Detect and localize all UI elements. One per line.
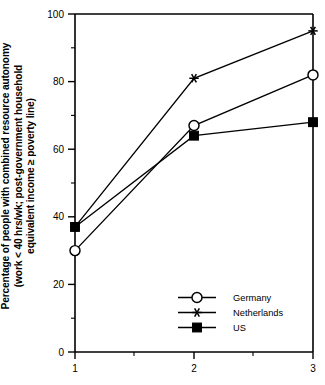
y-ticklabel-0: 0 (58, 347, 64, 358)
marker-circle-germany-x2 (189, 121, 199, 131)
y-axis-label-line-3: equivalent income ≥ poverty line) (25, 98, 38, 254)
y-axis-label-line-1: Percentage of people with combined resou… (0, 43, 13, 310)
marker-square-us-x1 (71, 223, 80, 232)
marker-circle-germany-x1 (70, 246, 80, 256)
x-axis-ticks (75, 352, 313, 359)
marker-square-us-x3 (309, 118, 318, 127)
x-ticklabel-2: 2 (191, 363, 197, 374)
legend-label-us: US (233, 323, 246, 333)
y-ticklabel-40: 40 (53, 211, 65, 222)
legend-label-netherlands: Netherlands (233, 308, 283, 318)
legend-marker-circle-germany (192, 293, 202, 303)
marker-star-netherlands-x2 (189, 74, 198, 82)
x-ticklabel-3: 3 (310, 363, 316, 374)
legend-item-us[interactable]: US (178, 323, 246, 333)
series-us (71, 118, 318, 232)
legend-item-netherlands[interactable]: Netherlands (178, 308, 283, 318)
series-germany-markers (70, 70, 318, 256)
x-ticklabel-1: 1 (72, 363, 78, 374)
y-ticklabel-100: 100 (47, 9, 64, 20)
series-germany (70, 70, 318, 256)
chart-figure: Percentage of people with combined resou… (0, 0, 325, 385)
y-axis-label: Percentage of people with combined resou… (0, 0, 46, 385)
y-ticklabel-80: 80 (53, 76, 65, 87)
legend-marker-star-netherlands (192, 308, 201, 316)
y-ticklabel-60: 60 (53, 144, 65, 155)
x-axis-ticklabels: 1 2 3 (72, 363, 316, 374)
y-axis-ticklabels: 0 20 40 60 80 100 (47, 9, 64, 358)
legend-marker-square-us (193, 323, 202, 332)
marker-square-us-x2 (190, 131, 199, 140)
plot-svg: 0 20 40 60 80 100 1 2 3 (0, 0, 325, 385)
y-axis-ticks (68, 14, 75, 352)
legend: Germany Netherlands US (178, 293, 283, 334)
series-germany-line (75, 75, 313, 251)
y-ticklabel-20: 20 (53, 279, 65, 290)
legend-item-germany[interactable]: Germany (178, 293, 272, 304)
marker-circle-germany-x3 (308, 70, 318, 80)
y-axis-label-line-2: (work < 40 hrs/wk; post-government house… (13, 65, 26, 287)
series-us-markers (71, 118, 318, 232)
legend-label-germany: Germany (233, 293, 272, 303)
